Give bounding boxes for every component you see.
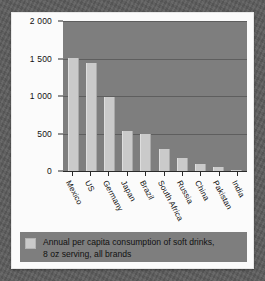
x-axis-label: Brazil — [138, 179, 156, 201]
x-axis-label-slot: Japan — [122, 177, 133, 226]
bar — [68, 58, 79, 171]
x-axis-label-slot: US — [85, 177, 96, 226]
x-axis-tick-mark — [237, 171, 238, 176]
x-axis-tick-mark — [90, 171, 91, 176]
x-axis-tick-mark — [219, 171, 220, 176]
chart-card: 2 0001 5001 0005000 MexicoUSGermanyJapan… — [11, 12, 254, 269]
x-axis-label: Mexico — [64, 179, 84, 206]
x-axis-tick-mark — [127, 171, 128, 176]
x-axis-label-slot: South Africa — [159, 177, 170, 226]
bar-series — [63, 21, 247, 171]
bar — [140, 134, 151, 172]
x-axis-tick-mark — [200, 171, 201, 176]
plot-area — [63, 21, 247, 171]
bar — [104, 97, 115, 171]
x-axis-label: Japan — [119, 179, 137, 203]
x-axis-label-slot: Mexico — [67, 177, 78, 226]
legend-swatch-icon — [25, 238, 36, 249]
x-axis-label-slot: Brazil — [140, 177, 151, 226]
y-axis: 2 0001 5001 0005000 — [20, 21, 58, 171]
x-axis-label: China — [193, 179, 211, 202]
x-axis-tick-mark — [164, 171, 165, 176]
x-axis-label-slot: India — [232, 177, 243, 226]
x-axis-labels: MexicoUSGermanyJapanBrazilSouth AfricaRu… — [63, 177, 247, 226]
y-axis-tick-label: 0 — [47, 166, 52, 176]
bar-chart: 2 0001 5001 0005000 MexicoUSGermanyJapan… — [20, 21, 247, 226]
bar — [177, 158, 188, 172]
y-axis-tick-label: 500 — [37, 129, 52, 139]
bar — [122, 131, 133, 172]
x-axis-label-slot: Russia — [177, 177, 188, 226]
x-axis-tick-mark — [108, 171, 109, 176]
x-axis-label-slot: Pakistan — [214, 177, 225, 226]
legend-label-line-2: 8 oz serving, all brands — [43, 249, 215, 261]
y-axis-tick-label: 1 000 — [30, 91, 52, 101]
x-axis-tick-mark — [72, 171, 73, 176]
y-axis-tick-label: 1 500 — [30, 54, 52, 64]
bar — [195, 164, 206, 171]
x-axis-ticks — [63, 171, 247, 176]
bar — [86, 63, 97, 171]
x-axis-tick-mark — [182, 171, 183, 176]
x-axis-label: US — [83, 179, 96, 193]
chart-legend: Annual per capita consumption of soft dr… — [20, 232, 247, 262]
legend-label: Annual per capita consumption of soft dr… — [43, 237, 215, 260]
legend-label-line-1: Annual per capita consumption of soft dr… — [43, 237, 215, 249]
bar — [159, 149, 170, 172]
x-axis-label-slot: China — [195, 177, 206, 226]
y-axis-tick-label: 2 000 — [30, 16, 52, 26]
x-axis-tick-mark — [145, 171, 146, 176]
x-axis-label-slot: Germany — [103, 177, 114, 226]
x-axis-label: India — [230, 179, 246, 199]
x-axis-label: Russia — [175, 179, 195, 205]
